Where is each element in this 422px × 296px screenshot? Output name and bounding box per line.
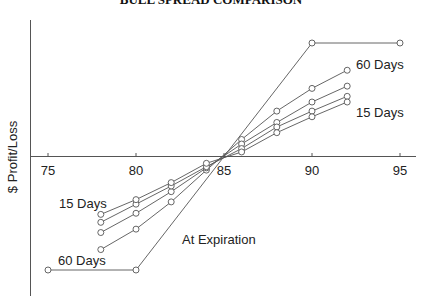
x-tick-label: 95 bbox=[393, 163, 407, 178]
data-point-marker bbox=[309, 114, 315, 120]
data-point-marker bbox=[344, 99, 350, 105]
x-tick-label: 80 bbox=[129, 163, 143, 178]
data-point-marker bbox=[133, 210, 139, 216]
x-tick-label: 85 bbox=[217, 163, 231, 178]
data-point-marker bbox=[98, 211, 104, 217]
data-point-marker bbox=[274, 130, 280, 136]
annotation-label: At Expiration bbox=[182, 232, 256, 247]
data-point-marker bbox=[344, 67, 350, 73]
annotation-label: 15 Days bbox=[356, 105, 404, 120]
data-point-marker bbox=[98, 219, 104, 225]
data-point-marker bbox=[239, 149, 245, 155]
data-point-marker bbox=[203, 160, 209, 166]
x-tick-label: 75 bbox=[41, 163, 55, 178]
data-point-marker bbox=[309, 99, 315, 105]
data-point-marker bbox=[45, 267, 51, 273]
bull-spread-chart: BULL SPREAD COMPARISON 7580859095 $ Prof… bbox=[0, 0, 422, 296]
series-3 bbox=[98, 93, 350, 225]
data-point-marker bbox=[98, 247, 104, 253]
x-tick-label: 90 bbox=[305, 163, 319, 178]
annotation-label: 15 Days bbox=[59, 196, 107, 211]
data-point-marker bbox=[309, 85, 315, 91]
y-axis-label: $ Profit/Loss bbox=[5, 120, 20, 193]
data-point-marker bbox=[344, 83, 350, 89]
series-1 bbox=[98, 67, 350, 252]
data-point-marker bbox=[274, 124, 280, 130]
data-point-marker bbox=[168, 180, 174, 186]
series-2 bbox=[98, 83, 350, 235]
annotation-label: 60 Days bbox=[356, 57, 404, 72]
data-point-marker bbox=[344, 93, 350, 99]
data-point-marker bbox=[133, 226, 139, 232]
annotation-label: 60 Days bbox=[58, 253, 106, 268]
data-point-marker bbox=[397, 40, 403, 46]
data-point-marker bbox=[274, 108, 280, 114]
data-point-marker bbox=[168, 189, 174, 195]
chart-title: BULL SPREAD COMPARISON bbox=[120, 0, 303, 7]
data-point-marker bbox=[133, 267, 139, 273]
data-point-marker bbox=[309, 108, 315, 114]
data-point-marker bbox=[309, 40, 315, 46]
data-point-marker bbox=[98, 230, 104, 236]
series-4 bbox=[98, 99, 350, 217]
data-point-marker bbox=[133, 197, 139, 203]
series-line bbox=[101, 70, 347, 249]
data-point-marker bbox=[168, 199, 174, 205]
